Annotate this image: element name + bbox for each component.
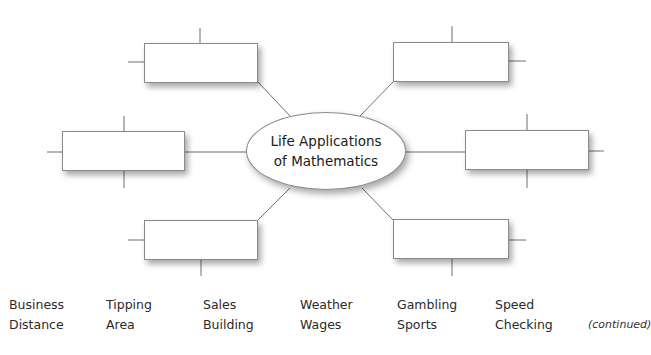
blank-box-top-left[interactable] bbox=[144, 43, 258, 83]
blank-box-bottom-right[interactable] bbox=[393, 219, 509, 259]
word-bank-item: Checking bbox=[495, 317, 553, 332]
word-bank-item: Speed bbox=[495, 297, 534, 312]
word-bank-item: Gambling bbox=[397, 297, 457, 312]
word-bank-item: Business bbox=[9, 297, 64, 312]
continued-label: (continued) bbox=[588, 318, 651, 331]
word-bank-item: Building bbox=[203, 317, 254, 332]
blank-box-bottom-left[interactable] bbox=[144, 220, 258, 260]
blank-box-middle-right[interactable] bbox=[465, 130, 589, 170]
blank-box-middle-left[interactable] bbox=[62, 131, 185, 171]
word-bank-item: Distance bbox=[9, 317, 64, 332]
word-bank-item: Area bbox=[106, 317, 135, 332]
word-bank-item: Tipping bbox=[106, 297, 152, 312]
word-bank-item: Sales bbox=[203, 297, 236, 312]
center-label-line1: Life Applications bbox=[270, 131, 381, 151]
blank-box-top-right[interactable] bbox=[393, 42, 509, 82]
center-topic-ellipse: Life Applications of Mathematics bbox=[246, 112, 406, 190]
word-bank-item: Wages bbox=[300, 317, 341, 332]
center-label-line2: of Mathematics bbox=[274, 151, 378, 171]
word-bank-item: Weather bbox=[300, 297, 353, 312]
word-bank-item: Sports bbox=[397, 317, 437, 332]
